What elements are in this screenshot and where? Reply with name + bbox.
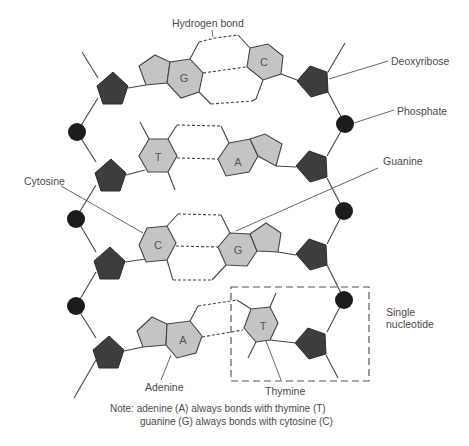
base-pair-c-g: C G bbox=[125, 214, 296, 280]
label-adenine: Adenine bbox=[145, 381, 184, 393]
label-phosphate: Phosphate bbox=[397, 105, 447, 117]
right-backbone bbox=[295, 43, 354, 378]
phosphate-icon bbox=[335, 291, 353, 309]
phosphate-icon bbox=[336, 115, 354, 133]
label-thymine: Thymine bbox=[265, 385, 305, 397]
guanine-pentagon-ring bbox=[139, 55, 170, 85]
base-pair-a-t: A T bbox=[124, 293, 296, 358]
base-letter-t: T bbox=[260, 320, 267, 332]
note-line-2: guanine (G) always bonds with cytosine (… bbox=[140, 416, 333, 427]
base-letter-t: T bbox=[155, 151, 162, 163]
deoxyribose-sugar-icon bbox=[95, 159, 126, 191]
label-single-nucleotide-line2: nucleotide bbox=[386, 318, 434, 330]
left-backbone bbox=[67, 52, 128, 398]
deoxyribose-sugar-icon bbox=[94, 247, 125, 279]
adenine-pentagon-ring bbox=[137, 317, 167, 347]
label-hydrogen-bond: Hydrogen bond bbox=[172, 17, 244, 29]
phosphate-icon bbox=[335, 202, 353, 220]
deoxyribose-sugar-icon bbox=[97, 72, 128, 104]
phosphate-icon bbox=[67, 297, 85, 315]
base-pair-g-c: G C bbox=[128, 35, 297, 104]
phosphate-icon bbox=[68, 123, 86, 141]
deoxyribose-sugar-icon bbox=[93, 336, 124, 368]
phosphate-icon bbox=[67, 210, 85, 228]
note-line-1: Note: adenine (A) always bonds with thym… bbox=[110, 403, 326, 414]
label-cytosine: Cytosine bbox=[24, 175, 65, 187]
label-guanine: Guanine bbox=[383, 155, 423, 167]
base-letter-c: C bbox=[154, 239, 162, 251]
dna-structure-diagram: G C T A C bbox=[0, 0, 469, 446]
base-pair-t-a: T A bbox=[126, 122, 296, 190]
deoxyribose-sugar-icon bbox=[296, 151, 327, 182]
base-letter-a: A bbox=[234, 156, 242, 168]
deoxyribose-sugar-icon bbox=[297, 66, 328, 97]
deoxyribose-sugar-icon bbox=[295, 328, 326, 359]
label-deoxyribose: Deoxyribose bbox=[391, 55, 450, 67]
deoxyribose-sugar-icon bbox=[296, 239, 327, 270]
base-letter-c: C bbox=[260, 56, 268, 68]
base-letter-g: G bbox=[234, 244, 243, 256]
label-single-nucleotide-line1: Single bbox=[386, 306, 415, 318]
base-letter-g: G bbox=[180, 72, 189, 84]
base-letter-a: A bbox=[179, 334, 187, 346]
